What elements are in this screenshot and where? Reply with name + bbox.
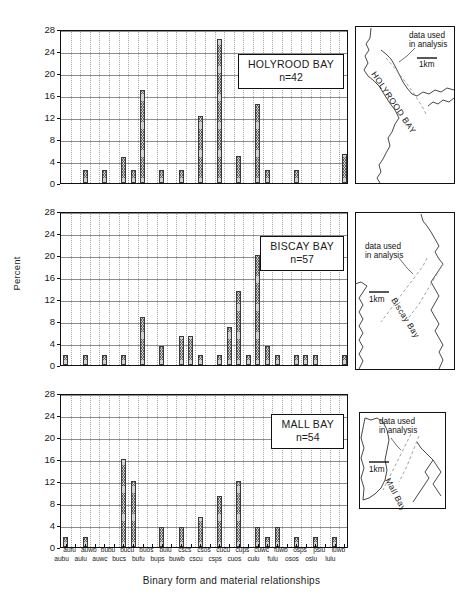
bar-cuwc — [255, 104, 260, 183]
y-tick-mark — [57, 504, 61, 505]
horizontal-gridline — [61, 97, 347, 98]
bar-osps — [294, 170, 299, 183]
bar-buos — [140, 90, 145, 184]
y-tick-label: 16 — [29, 91, 55, 101]
bar-bucu — [121, 157, 126, 183]
x-label-aubu: aubu — [54, 556, 68, 563]
bar-csos — [198, 517, 203, 547]
bar-bucu — [121, 355, 126, 365]
bar-cscs — [179, 170, 184, 183]
y-tick-label: 0 — [29, 179, 55, 189]
y-tick-mark — [57, 278, 61, 279]
x-label-buos: buos — [139, 547, 153, 554]
bar-aufu — [63, 355, 68, 365]
panel-n-biscay: n=57 — [270, 253, 334, 266]
x-label-cuwc: cuwc — [254, 547, 269, 554]
y-tick-label: 20 — [29, 433, 55, 443]
inset-annotation-line2-mall: in analysis — [379, 426, 417, 435]
y-tick-mark — [57, 344, 61, 345]
y-tick-mark — [57, 438, 61, 439]
bar-fuwb — [275, 355, 280, 365]
x-label-cuos: cuos — [227, 556, 241, 563]
bar-pslu — [313, 355, 318, 365]
bar-bulu — [159, 346, 164, 365]
x-label-osps: osps — [293, 547, 307, 554]
horizontal-gridline — [61, 213, 347, 214]
y-tick-label: 4 — [29, 157, 55, 167]
panel-title-mall: MALL BAY — [281, 418, 334, 431]
bar-bucs — [131, 170, 136, 183]
y-tick-mark — [57, 482, 61, 483]
y-tick-mark — [57, 212, 61, 213]
inset-annotation-line1-biscay: data used — [365, 242, 401, 251]
bar-cucu — [217, 496, 222, 547]
panel-n-holyrood: n=42 — [248, 71, 334, 84]
horizontal-gridline — [61, 527, 347, 528]
bar-csps — [227, 327, 232, 366]
horizontal-gridline — [61, 31, 347, 32]
x-label-bups: bups — [150, 556, 164, 563]
inset-annotation-line1-mall: data used — [379, 417, 415, 426]
bar-cucu — [217, 39, 222, 183]
y-tick-mark — [57, 460, 61, 461]
y-tick-mark — [57, 162, 61, 163]
bar-csos — [198, 116, 203, 183]
x-axis-title: Binary form and material relationships — [0, 575, 463, 586]
y-tick-label: 0 — [29, 361, 55, 371]
x-label-pslu: pslu — [313, 547, 325, 554]
x-label-auwb: auwb — [81, 547, 97, 554]
inset-map-biscay-svg: data used in analysis 1km Biscay Bay — [355, 212, 455, 370]
x-label-cups: cups — [236, 547, 250, 554]
horizontal-gridline — [61, 119, 347, 120]
bar-cuwc — [255, 255, 260, 365]
horizontal-gridline — [61, 163, 347, 164]
inset-scale-label-biscay: 1km — [369, 295, 385, 304]
bar-lulu — [342, 355, 347, 365]
panel-n-mall: n=54 — [281, 431, 334, 444]
y-tick-label: 28 — [29, 389, 55, 399]
bar-osos — [303, 355, 308, 365]
inset-annotation-line2-biscay: in analysis — [365, 251, 403, 260]
y-tick-label: 16 — [29, 455, 55, 465]
y-tick-mark — [57, 416, 61, 417]
y-tick-label: 28 — [29, 25, 55, 35]
bar-cuos — [246, 355, 251, 365]
figure-root: Percent HOLYROOD BAY n=42 0481216202428 … — [0, 0, 463, 603]
inset-map-mall: data used in analysis 1km Mall Bay — [355, 408, 455, 513]
x-axis-labels: aufuauwbbububucubuosbulucscscsoscucucups… — [0, 546, 463, 568]
bar-bucs — [131, 481, 136, 547]
y-tick-label: 12 — [29, 113, 55, 123]
y-tick-mark — [57, 30, 61, 31]
horizontal-gridline — [61, 505, 347, 506]
horizontal-gridline — [61, 323, 347, 324]
x-label-culu: culu — [248, 556, 260, 563]
horizontal-gridline — [61, 395, 347, 396]
x-label-fulu: fulu — [268, 556, 278, 563]
y-tick-mark — [57, 394, 61, 395]
inset-map-holyrood-svg: data used in analysis 1km HOLYROOD BAY — [355, 26, 455, 184]
y-tick-label: 8 — [29, 135, 55, 145]
y-tick-mark — [57, 118, 61, 119]
x-label-csos: csos — [197, 547, 210, 554]
panel-caption-mall: MALL BAY n=54 — [271, 414, 344, 449]
bar-buos — [140, 317, 145, 365]
horizontal-gridline — [61, 345, 347, 346]
bar-bucu — [121, 459, 126, 547]
bar-cucu — [217, 355, 222, 365]
inset-map-mall-svg: data used in analysis 1km Mall Bay — [355, 408, 455, 513]
y-tick-label: 24 — [29, 229, 55, 239]
y-axis-title: Percent — [11, 234, 22, 314]
x-label-cucu: cucu — [216, 547, 230, 554]
y-tick-mark — [57, 234, 61, 235]
x-label-bulu: bulu — [159, 547, 171, 554]
x-label-lulu: lulu — [325, 556, 335, 563]
y-tick-mark — [57, 52, 61, 53]
inset-annotation-line1-holyrood: data used — [409, 31, 445, 40]
x-label-bufu: bufu — [132, 556, 145, 563]
y-tick-label: 8 — [29, 499, 55, 509]
horizontal-gridline — [61, 301, 347, 302]
x-label-luwb: luwb — [332, 547, 345, 554]
bar-cups — [236, 156, 241, 184]
y-tick-label: 24 — [29, 47, 55, 57]
horizontal-gridline — [61, 461, 347, 462]
